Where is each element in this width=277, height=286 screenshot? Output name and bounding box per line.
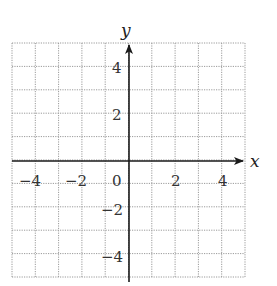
y-tick-label-2: 2: [112, 106, 122, 124]
y-axis-label: y: [120, 20, 131, 40]
x-tick-label-4: 4: [218, 172, 228, 190]
x-tick-label-neg4: −4: [19, 172, 41, 190]
x-tick-label-neg2: −2: [65, 172, 87, 190]
coordinate-plane: x y −4 −2 0 2 4 4 2 −2 −4: [0, 0, 277, 286]
y-tick-label-neg4: −4: [101, 248, 123, 266]
x-axis-label: x: [250, 151, 260, 171]
x-tick-label-2: 2: [171, 172, 181, 190]
y-tick-label-4: 4: [112, 59, 122, 77]
origin-label: 0: [112, 172, 122, 190]
y-tick-label-neg2: −2: [101, 201, 123, 219]
